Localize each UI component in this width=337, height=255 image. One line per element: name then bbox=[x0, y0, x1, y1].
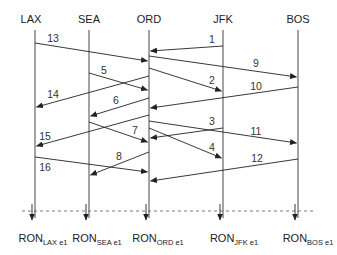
snapshot-sub: SEA e1 bbox=[97, 238, 122, 247]
snapshot-sub: LAX e1 bbox=[43, 238, 68, 247]
message-label: 16 bbox=[39, 161, 51, 173]
snapshot-label-bos: RONBOS e1 bbox=[283, 232, 334, 247]
snapshot-label-lax: RONLAX e1 bbox=[18, 232, 67, 247]
message-arrow-5 bbox=[89, 73, 148, 90]
message-label: 15 bbox=[39, 130, 51, 142]
message-label: 1 bbox=[209, 33, 215, 45]
message-label: 5 bbox=[101, 64, 107, 76]
node-label-sea: SEA bbox=[78, 13, 100, 25]
snapshot-main: RON bbox=[72, 232, 96, 244]
message-arrow-10 bbox=[151, 87, 299, 108]
snapshot-sub: ORD e1 bbox=[157, 238, 184, 247]
message-arrow-12 bbox=[151, 159, 299, 181]
message-arrow-1 bbox=[151, 46, 224, 51]
snapshot-label-sea: RONSEA e1 bbox=[72, 232, 121, 247]
message-label: 7 bbox=[132, 124, 138, 136]
node-label-lax: LAX bbox=[21, 13, 42, 25]
message-arrow-13 bbox=[35, 43, 148, 61]
message-label: 11 bbox=[251, 125, 262, 137]
snapshot-sub: BOS e1 bbox=[307, 238, 333, 247]
message-label: 12 bbox=[251, 152, 263, 164]
message-label: 14 bbox=[47, 88, 59, 100]
snapshot-main: RON bbox=[18, 232, 42, 244]
message-label: 9 bbox=[253, 57, 259, 69]
snapshot-label-ord: RONORD e1 bbox=[132, 232, 184, 247]
message-arrow-7 bbox=[89, 122, 148, 142]
message-label: 4 bbox=[209, 141, 215, 153]
node-label-bos: BOS bbox=[286, 13, 309, 25]
message-label: 10 bbox=[250, 80, 262, 92]
snapshot-arrows bbox=[32, 204, 295, 220]
snapshot-sub: JFK e1 bbox=[234, 238, 258, 247]
message-label: 6 bbox=[113, 94, 119, 106]
snapshot-main: RON bbox=[283, 232, 307, 244]
message-label: 13 bbox=[47, 32, 59, 44]
node-label-jfk: JFK bbox=[213, 13, 233, 25]
snapshot-main: RON bbox=[132, 232, 156, 244]
message-arrow-6 bbox=[91, 98, 150, 116]
message-label: 8 bbox=[116, 150, 122, 162]
snapshot-label-jfk: RONJFK e1 bbox=[210, 232, 258, 247]
message-label: 2 bbox=[209, 74, 215, 86]
snapshot-main: RON bbox=[210, 232, 234, 244]
message-label: 3 bbox=[209, 115, 215, 127]
node-label-ord: ORD bbox=[137, 13, 161, 25]
